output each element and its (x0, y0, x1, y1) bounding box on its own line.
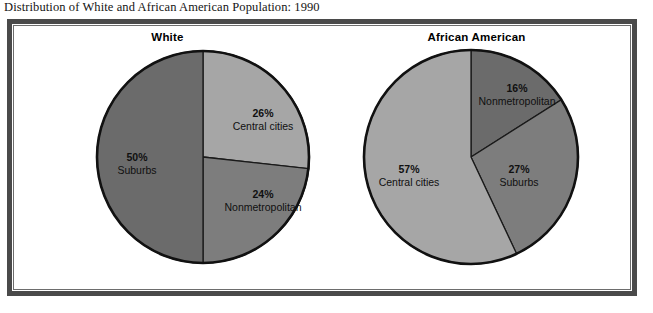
pie-label-white-suburbs: 50% Suburbs (87, 151, 187, 176)
pie-svg-african-american (322, 25, 631, 287)
pie-label-african-central-cities-name: Central cities (354, 176, 464, 189)
pie-label-white-central-cities-name: Central cities (203, 120, 323, 133)
pie-label-african-suburbs: 27% Suburbs (469, 163, 569, 188)
pie-label-african-central-cities: 57% Central cities (354, 163, 464, 188)
pie-label-african-central-cities-value: 57% (354, 163, 464, 176)
pie-label-white-central-cities: 26% Central cities (203, 107, 323, 132)
pie-label-white-nonmetropolitan-value: 24% (199, 188, 327, 201)
pie-label-african-nonmetropolitan-value: 16% (453, 82, 581, 95)
chart-panel-white: White 26% Central cities 24% Nonmetropol… (13, 25, 322, 287)
pie-label-african-nonmetropolitan: 16% Nonmetropolitan (453, 82, 581, 107)
pie-label-african-nonmetropolitan-name: Nonmetropolitan (453, 95, 581, 108)
pie-label-african-suburbs-name: Suburbs (469, 176, 569, 189)
figure-caption: Distribution of White and African Americ… (4, 0, 644, 16)
pie-label-white-nonmetropolitan-name: Nonmetropolitan (199, 201, 327, 214)
pie-label-white-nonmetropolitan: 24% Nonmetropolitan (199, 188, 327, 213)
chart-panel-african-american: African American 16% Nonmetropolitan 27%… (322, 25, 631, 287)
pie-label-african-suburbs-value: 27% (469, 163, 569, 176)
pie-label-white-suburbs-name: Suburbs (87, 164, 187, 177)
pie-label-white-central-cities-value: 26% (203, 107, 323, 120)
pie-chart-african-american (322, 25, 631, 287)
pie-label-white-suburbs-value: 50% (87, 151, 187, 164)
